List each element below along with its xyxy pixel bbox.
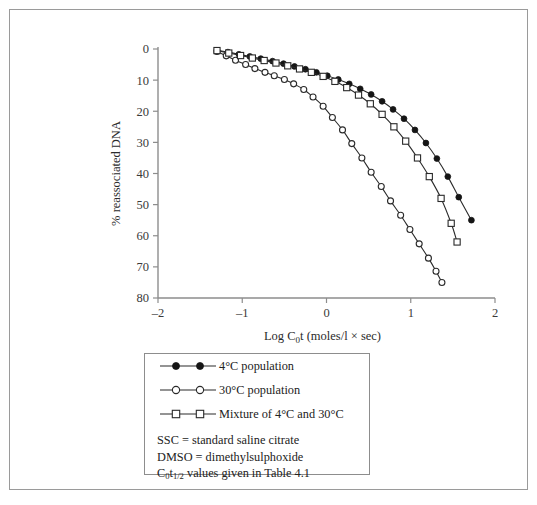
- note-cot-half-frac: 1/2: [173, 471, 184, 481]
- data-point-filled-circle: [423, 140, 429, 146]
- data-point-open-circle: [301, 86, 307, 92]
- data-point-open-circle: [407, 227, 413, 233]
- data-point-open-circle: [425, 255, 431, 261]
- legend-box: 4°C population 30°C population Mixture o…: [144, 353, 370, 475]
- data-point-open-square: [367, 101, 373, 107]
- legend-label-4c: 4°C population: [219, 359, 294, 374]
- note-dmso: DMSO = dimethylsulphoxide: [157, 449, 369, 466]
- data-point-open-circle: [388, 198, 394, 204]
- legend-item-30c: 30°C population: [145, 378, 369, 402]
- data-point-open-circle: [349, 141, 355, 147]
- series-line: [217, 51, 442, 282]
- legend-notes: SSC = standard saline citrate DMSO = dim…: [145, 426, 369, 485]
- data-point-open-square: [454, 239, 460, 245]
- data-point-filled-circle: [456, 194, 462, 200]
- data-point-open-circle: [243, 62, 249, 68]
- data-point-filled-circle: [412, 127, 418, 133]
- data-point-open-square: [414, 155, 420, 161]
- data-point-open-square: [273, 60, 279, 66]
- data-point-open-circle: [281, 77, 287, 83]
- data-point-filled-circle: [390, 106, 396, 112]
- series-2: [214, 48, 445, 285]
- data-point-open-circle: [368, 169, 374, 175]
- data-point-open-circle: [340, 127, 346, 133]
- data-point-open-circle: [439, 279, 445, 285]
- x-tick-label: –2: [151, 306, 165, 320]
- data-point-open-square: [296, 66, 302, 72]
- data-point-open-square: [261, 57, 267, 63]
- data-point-open-square: [249, 55, 255, 61]
- data-point-open-circle: [416, 241, 422, 247]
- legend-item-mixture: Mixture of 4°C and 30°C: [145, 402, 369, 426]
- data-point-open-square: [308, 69, 314, 75]
- data-point-open-circle: [398, 212, 404, 218]
- data-point-open-square: [355, 92, 361, 98]
- y-tick-label: 10: [137, 74, 150, 88]
- data-point-open-square: [379, 111, 385, 117]
- legend-marker-open-circle: [157, 383, 219, 397]
- note-cot-suffix: values given in Table 4.1: [184, 466, 310, 480]
- x-tick-label: 2: [492, 306, 498, 320]
- figure-frame: 01020304050607080–2–1012 % reassociated …: [9, 9, 528, 490]
- data-point-open-circle: [433, 268, 439, 274]
- note-ssc: SSC = standard saline citrate: [157, 432, 369, 449]
- data-point-open-square: [344, 85, 350, 91]
- data-point-open-square: [403, 138, 409, 144]
- y-axis-title: % reassociated DNA: [109, 121, 123, 226]
- y-tick-label: 70: [137, 260, 150, 274]
- note-cot-prefix: C: [157, 466, 165, 480]
- curves-group: [214, 47, 474, 285]
- series-line: [217, 50, 471, 220]
- data-point-open-square: [426, 174, 432, 180]
- axes-group: 01020304050607080–2–1012: [137, 42, 499, 320]
- y-tick-label: 20: [137, 105, 150, 119]
- x-tick-label: –1: [235, 306, 249, 320]
- series-1: [214, 47, 474, 223]
- data-point-open-circle: [378, 184, 384, 190]
- data-point-open-square: [332, 78, 338, 84]
- data-point-open-circle: [320, 103, 326, 109]
- y-tick-label: 0: [143, 42, 149, 56]
- data-point-filled-circle: [379, 98, 385, 104]
- data-point-open-square: [438, 195, 444, 201]
- data-point-open-circle: [310, 94, 316, 100]
- data-point-open-circle: [271, 73, 277, 79]
- data-point-filled-circle: [469, 217, 475, 223]
- y-tick-label: 40: [137, 167, 150, 181]
- data-point-filled-circle: [401, 116, 407, 122]
- y-tick-label: 50: [137, 198, 150, 212]
- data-point-open-square: [214, 47, 220, 53]
- data-point-open-square: [226, 50, 232, 56]
- legend-label-mixture: Mixture of 4°C and 30°C: [219, 407, 344, 422]
- data-point-open-square: [391, 124, 397, 130]
- y-tick-label: 60: [137, 229, 150, 243]
- y-tick-label: 80: [137, 291, 150, 305]
- legend-marker-open-square: [157, 407, 219, 421]
- x-axis-title: Log C0t (moles/l × sec): [264, 329, 381, 345]
- data-point-open-circle: [359, 155, 365, 161]
- legend-marker-filled-circle: [157, 359, 219, 373]
- data-point-filled-circle: [357, 86, 363, 92]
- legend-item-4c: 4°C population: [145, 354, 369, 378]
- data-point-filled-circle: [445, 174, 451, 180]
- data-point-open-circle: [291, 81, 297, 87]
- data-point-open-square: [448, 220, 454, 226]
- data-point-filled-circle: [434, 156, 440, 162]
- data-point-open-square: [237, 52, 243, 58]
- data-point-open-square: [320, 73, 326, 79]
- x-tick-label: 1: [408, 306, 414, 320]
- y-tick-label: 30: [137, 136, 150, 150]
- data-point-open-circle: [252, 66, 258, 72]
- data-point-open-circle: [262, 69, 268, 75]
- x-tick-label: 0: [323, 306, 329, 320]
- data-point-open-square: [285, 63, 291, 69]
- data-point-open-circle: [329, 114, 335, 120]
- legend-label-30c: 30°C population: [219, 383, 300, 398]
- note-cot-half: C0t1/2 values given in Table 4.1: [157, 465, 369, 485]
- data-point-filled-circle: [368, 92, 374, 98]
